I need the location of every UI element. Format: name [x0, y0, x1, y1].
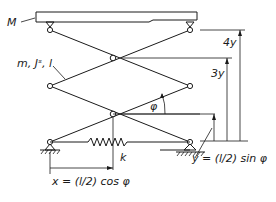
- spring: [50, 138, 190, 146]
- spring-label: k: [120, 151, 127, 164]
- mass-label: M: [7, 16, 17, 29]
- height-3y-label: 3y: [211, 67, 225, 80]
- height-4y-label: 4y: [223, 36, 237, 49]
- mass-leader: [21, 18, 35, 22]
- scissor-lift-diagram: M m, Jˢ, l 4y 3y: [0, 0, 276, 202]
- x-formula-label: x = (l/2) cos φ: [51, 175, 131, 188]
- link-properties-label: m, Jˢ, l: [17, 57, 52, 70]
- angle-label: φ: [150, 100, 158, 113]
- top-pin-supports: [46, 22, 194, 27]
- link-leader: [53, 66, 65, 79]
- platform: [36, 12, 197, 22]
- pin-joints: [47, 27, 192, 144]
- scissor-links: [50, 30, 190, 142]
- y-formula-label: y = (l/2) sin φ: [191, 152, 268, 165]
